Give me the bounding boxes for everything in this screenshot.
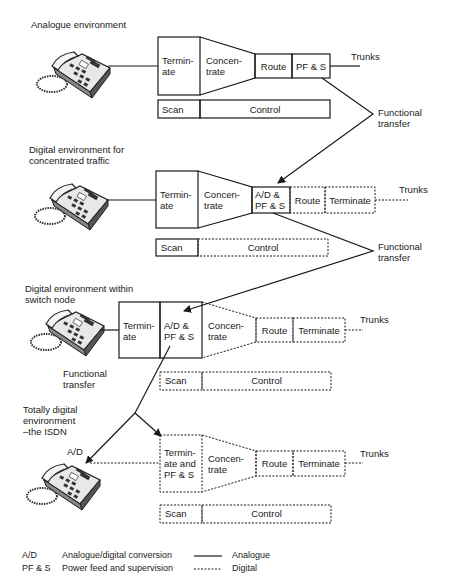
- legend-analogue-label: Analogue: [232, 550, 270, 561]
- block-concentrate: Concen- trate: [204, 189, 240, 211]
- block-control: Control: [202, 375, 331, 386]
- block-terminate: Termin- ate: [162, 55, 194, 77]
- block-control: Control: [202, 508, 331, 519]
- block-scan: Scan: [161, 242, 183, 253]
- trunks-label: Trunks: [351, 51, 380, 62]
- block-scan: Scan: [165, 375, 187, 386]
- block-control: Control: [198, 242, 328, 253]
- legend-abbr-ad: A/D: [22, 550, 37, 561]
- block-terminate: Termin- ate: [123, 320, 155, 342]
- functional-transfer-label: Functional transfer: [378, 107, 422, 129]
- block-terminate-pf-s: Termin- ate and PF & S: [164, 447, 196, 480]
- section-title-digital-switch-node: Digital environment within switch node: [25, 283, 133, 305]
- block-scan: Scan: [162, 104, 184, 115]
- legend-digital-label: Digital: [232, 563, 257, 574]
- block-terminate: Termin- ate: [160, 189, 192, 211]
- telephone-icon: [27, 464, 100, 510]
- block-ad-pf-s: A/D & PF & S: [164, 320, 194, 342]
- section-title-analogue: Analogue environment: [31, 19, 126, 30]
- legend-meaning-ad: Analogue/digital conversion: [62, 550, 172, 561]
- block-route: Route: [290, 195, 325, 206]
- telephone-icon: [31, 310, 104, 356]
- block-concentrate: Concen- trate: [208, 320, 244, 342]
- telephone-icon: [35, 184, 108, 230]
- block-scan: Scan: [165, 508, 187, 519]
- block-ad-pf-s: A/D & PF & S: [255, 189, 285, 211]
- block-concentrate: Concen- trate: [208, 453, 244, 475]
- legend-meaning-pfs: Power feed and supervision: [62, 563, 173, 574]
- trunks-label: Trunks: [360, 448, 389, 459]
- block-terminate-digital: Terminate: [325, 195, 375, 206]
- block-concentrate: Concen- trate: [206, 55, 242, 77]
- section-title-isdn: Totally digital environment –the ISDN: [23, 404, 77, 437]
- phone-ad-label: A/D: [67, 446, 83, 457]
- functional-transfer-label: Functional transfer: [378, 241, 422, 263]
- block-control: Control: [200, 104, 330, 115]
- legend-abbr-pfs: PF & S: [22, 563, 51, 574]
- block-pf-s: PF & S: [292, 61, 330, 72]
- section-title-digital-concentrated: Digital environment for concentrated tra…: [29, 144, 124, 166]
- functional-transfer-label: Functional transfer: [63, 368, 107, 390]
- block-route: Route: [256, 325, 293, 336]
- telephone-icon: [37, 52, 110, 98]
- block-route: Route: [255, 61, 292, 72]
- block-route: Route: [256, 458, 293, 469]
- trunks-label: Trunks: [399, 184, 428, 195]
- trunks-label: Trunks: [360, 314, 389, 325]
- block-terminate-digital: Terminate: [293, 458, 345, 469]
- block-terminate-digital: Terminate: [293, 325, 345, 336]
